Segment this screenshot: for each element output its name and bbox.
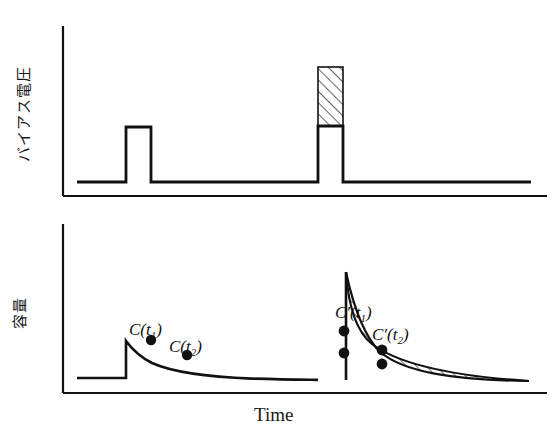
bias-voltage-panel [63, 26, 547, 196]
dlts-figure: バイアス電圧 容量 [0, 0, 560, 441]
x-axis-label-time: Time [254, 404, 293, 426]
figure-canvas [0, 0, 560, 441]
label-c-t2: C(t2) [169, 337, 202, 358]
marker-cprime-t2-lower [377, 359, 388, 370]
label-c-t1: C(t1) [129, 320, 162, 341]
label-cprime-t1: C′(t1) [335, 303, 372, 324]
bias-voltage-waveform [77, 126, 531, 182]
capacitance-panel [63, 224, 550, 395]
label-cprime-t2: C′(t2) [372, 325, 409, 346]
marker-cprime-t1-upper [339, 326, 350, 337]
marker-cprime-t1-lower [339, 348, 350, 359]
second-pulse-hatched-excess [318, 67, 343, 126]
